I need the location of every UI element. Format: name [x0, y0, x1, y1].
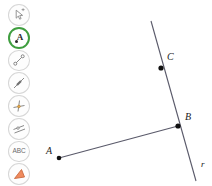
point-label-c: C: [167, 52, 174, 62]
point-a[interactable]: [57, 156, 62, 161]
segment-ab[interactable]: [59, 126, 178, 158]
geometry-svg: [0, 0, 212, 186]
line-r[interactable]: [151, 21, 196, 181]
point-c[interactable]: [158, 65, 163, 70]
point-label-b: B: [185, 112, 191, 122]
geometry-canvas[interactable]: A B C r: [38, 0, 212, 186]
point-b[interactable]: [175, 123, 180, 128]
geometry-app: A: [0, 0, 212, 186]
point-label-a: A: [46, 146, 52, 156]
line-label-r: r: [201, 160, 205, 169]
